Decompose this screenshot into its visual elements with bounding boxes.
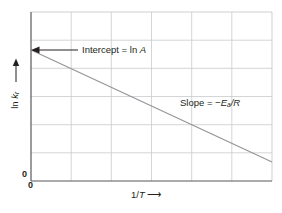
intercept-symbol-A: A bbox=[140, 44, 146, 55]
y-axis-origin-tick: 0 bbox=[22, 170, 27, 179]
slope-annotation-label: Slope = −Ea/R bbox=[180, 98, 240, 109]
intercept-text: Intercept = ln bbox=[82, 44, 140, 55]
x-axis-label-text: 1/ bbox=[131, 189, 139, 200]
y-axis-label-subscript-r: r bbox=[13, 92, 20, 94]
x-axis-label: 1/T⟶ bbox=[131, 190, 160, 200]
slope-text: Slope = − bbox=[180, 97, 221, 108]
y-axis-label: ln kr bbox=[10, 77, 21, 123]
x-axis-label-symbol-T: T bbox=[139, 189, 145, 200]
arrhenius-plot-figure: Intercept = ln A Slope = −Ea/R 1/T⟶ ln k… bbox=[0, 0, 282, 213]
slope-denominator: /R bbox=[231, 97, 241, 108]
y-axis-label-symbol-k: k bbox=[9, 94, 20, 99]
x-axis-arrow-icon: ⟶ bbox=[147, 190, 160, 200]
intercept-annotation-label: Intercept = ln A bbox=[82, 45, 146, 55]
x-axis-origin-tick: 0 bbox=[28, 181, 33, 190]
y-axis-label-text: ln bbox=[9, 99, 20, 109]
